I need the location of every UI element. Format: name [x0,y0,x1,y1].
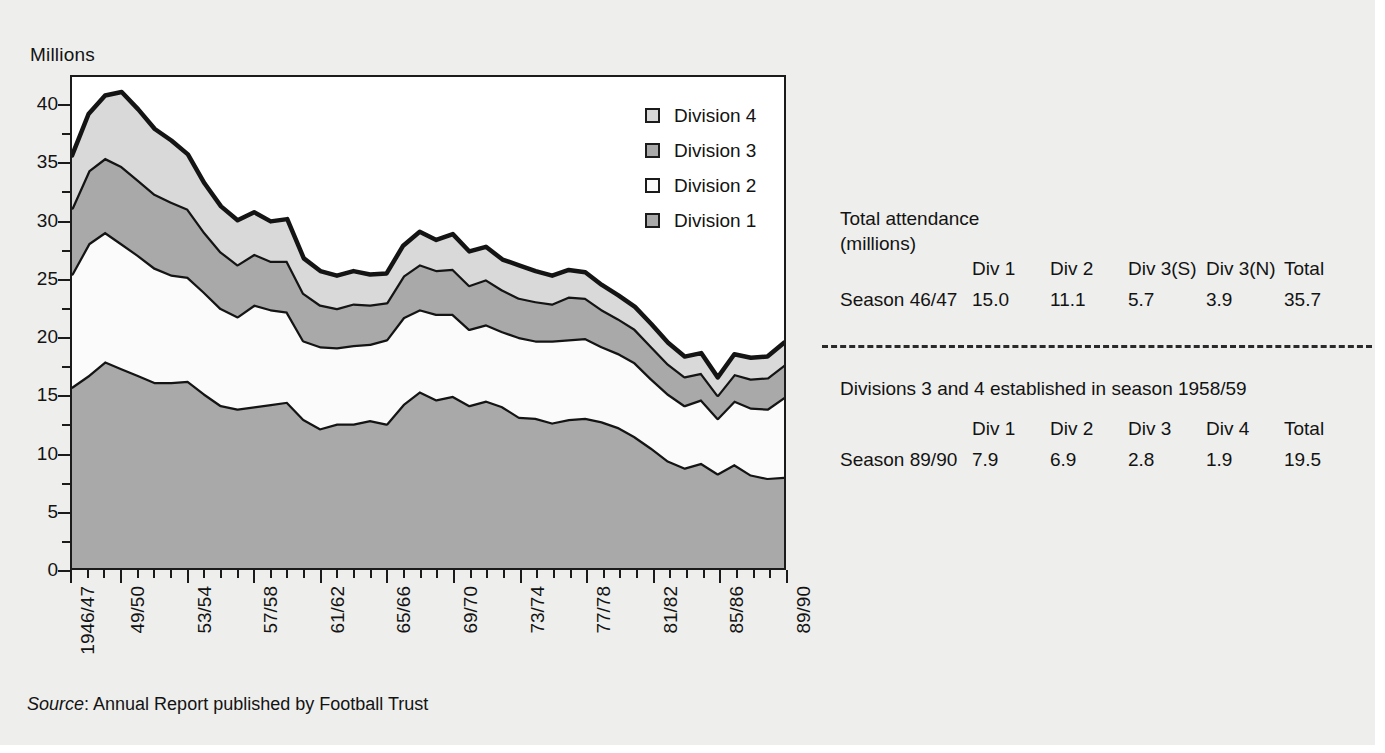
source-note: Source: Annual Report published by Footb… [27,694,428,715]
cell-div3: 2.8 [1128,449,1206,471]
x-tick-label: 89/90 [793,586,815,634]
source-word: Source [27,694,84,714]
legend-label: Division 4 [674,105,756,127]
tables-title: Total attendance (millions) [840,206,979,256]
cell-season: Season 89/90 [822,449,972,471]
cell-div1: 7.9 [972,449,1050,471]
x-major-tick [453,570,455,583]
legend-swatch-icon [645,108,660,123]
x-minor-tick [220,570,222,578]
y-minor-tick [62,308,70,310]
attendance-area-chart: Millions 0510152025303540 1946/4749/5053… [0,0,800,745]
x-minor-tick [103,570,105,578]
x-axis-tick-labels: 1946/4749/5053/5457/5861/6265/6669/7073/… [70,586,786,686]
col-header-div2: Div 2 [1050,418,1128,440]
x-major-tick [786,570,788,583]
x-minor-tick [436,570,438,578]
col-header-div2: Div 2 [1050,258,1128,280]
col-header-div3n: Div 3(N) [1206,258,1284,280]
y-tick-label: 5 [14,501,58,523]
table-season-89-90: Div 1 Div 2 Div 3 Div 4 Total Season 89/… [822,418,1375,480]
y-tick-label: 15 [14,384,58,406]
x-tick-label: 81/82 [660,586,682,634]
x-minor-tick [686,570,688,578]
legend-label: Division 2 [674,175,756,197]
x-minor-tick [736,570,738,578]
x-minor-tick [619,570,621,578]
x-tick-label: 77/78 [593,586,615,634]
x-minor-tick [470,570,472,578]
y-axis-tick-labels: 0510152025303540 [6,75,58,570]
x-minor-tick [703,570,705,578]
x-tick-label: 65/66 [393,586,415,634]
y-tick-label: 0 [14,559,58,581]
x-minor-tick [237,570,239,578]
legend-item-division-2: Division 2 [645,168,756,203]
y-tick-label: 20 [14,326,58,348]
chart-legend: Division 4Division 3Division 2Division 1 [645,98,756,238]
y-tick-label: 35 [14,151,58,173]
x-major-tick [70,570,72,583]
x-major-tick [719,570,721,583]
x-minor-tick [270,570,272,578]
x-minor-tick [636,570,638,578]
y-minor-tick [62,133,70,135]
col-header-div1: Div 1 [972,258,1050,280]
y-tick-label: 10 [14,443,58,465]
legend-swatch-icon [645,178,660,193]
cell-div3s: 5.7 [1128,289,1206,311]
y-tick-label: 30 [14,210,58,232]
x-minor-tick [403,570,405,578]
y-axis-title: Millions [30,44,95,66]
x-minor-tick [753,570,755,578]
x-minor-tick [336,570,338,578]
cell-div3n: 3.9 [1206,289,1284,311]
attendance-tables: Total attendance (millions) Div 1 Div 2 … [822,0,1375,745]
y-axis-minor-ticks [62,75,70,570]
x-minor-tick [669,570,671,578]
cell-div2: 6.9 [1050,449,1128,471]
y-minor-tick [62,483,70,485]
x-major-tick [520,570,522,583]
y-tick-label: 25 [14,268,58,290]
x-minor-tick [553,570,555,578]
x-tick-label: 61/62 [327,586,349,634]
x-minor-tick [769,570,771,578]
x-major-tick [187,570,189,583]
table-header-row: Div 1 Div 2 Div 3 Div 4 Total [822,418,1375,449]
tables-title-line1: Total attendance [840,206,979,231]
col-header-div1: Div 1 [972,418,1050,440]
cell-total: 35.7 [1284,289,1370,311]
legend-swatch-icon [645,213,660,228]
y-minor-tick [62,541,70,543]
col-header-div3: Div 3 [1128,418,1206,440]
legend-item-division-4: Division 4 [645,98,756,133]
table-season-46-47: Div 1 Div 2 Div 3(S) Div 3(N) Total Seas… [822,258,1375,320]
legend-swatch-icon [645,143,660,158]
x-minor-tick [503,570,505,578]
x-minor-tick [303,570,305,578]
source-text: : Annual Report published by Football Tr… [84,694,428,714]
figure-page: Millions 0510152025303540 1946/4749/5053… [0,0,1375,745]
y-minor-tick [62,250,70,252]
x-major-tick [653,570,655,583]
x-minor-tick [87,570,89,578]
legend-item-division-1: Division 1 [645,203,756,238]
y-minor-tick [62,424,70,426]
table-row: Season 46/47 15.0 11.1 5.7 3.9 35.7 [822,289,1375,320]
x-major-tick [253,570,255,583]
x-minor-tick [153,570,155,578]
cell-div4: 1.9 [1206,449,1284,471]
x-minor-tick [603,570,605,578]
legend-label: Division 3 [674,140,756,162]
x-major-tick [386,570,388,583]
table-header-row: Div 1 Div 2 Div 3(S) Div 3(N) Total [822,258,1375,289]
x-axis-ticks [70,570,786,584]
x-minor-tick [420,570,422,578]
cell-div1: 15.0 [972,289,1050,311]
y-minor-tick [62,366,70,368]
y-tick-label: 40 [14,93,58,115]
x-minor-tick [137,570,139,578]
divisions-note: Divisions 3 and 4 established in season … [840,378,1247,400]
y-minor-tick [62,191,70,193]
